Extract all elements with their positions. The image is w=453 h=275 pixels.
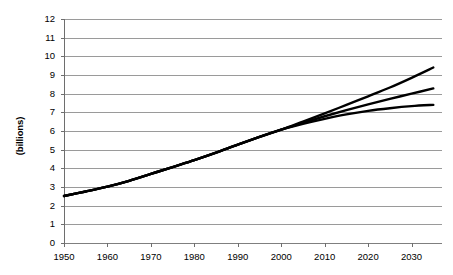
x-axis-tick-label: 1960 bbox=[87, 252, 127, 262]
x-axis-tick-label: 2010 bbox=[305, 252, 345, 262]
x-axis-tick-label: 2000 bbox=[261, 252, 301, 262]
x-axis-tick-label: 2030 bbox=[392, 252, 432, 262]
y-axis-tick-label: 5 bbox=[31, 145, 55, 155]
population-projection-chart: (billions) 01234567891011121950196019701… bbox=[0, 0, 453, 275]
chart-canvas bbox=[0, 0, 453, 275]
y-axis-tick-label: 4 bbox=[31, 163, 55, 173]
x-axis-tick-label: 1980 bbox=[174, 252, 214, 262]
y-axis-tick-label: 2 bbox=[31, 201, 55, 211]
y-axis-tick-label: 0 bbox=[31, 238, 55, 248]
series-line bbox=[64, 88, 433, 196]
y-axis-tick-label: 8 bbox=[31, 89, 55, 99]
y-axis-tick-label: 7 bbox=[31, 107, 55, 117]
x-axis-tick-label: 2020 bbox=[348, 252, 388, 262]
y-axis-tick-label: 10 bbox=[31, 51, 55, 61]
y-axis-tick-label: 3 bbox=[31, 182, 55, 192]
x-axis-tick-label: 1990 bbox=[218, 252, 258, 262]
y-axis-tick-label: 6 bbox=[31, 126, 55, 136]
y-axis-tick-label: 11 bbox=[31, 33, 55, 43]
y-axis-tick-label: 9 bbox=[31, 70, 55, 80]
y-axis-tick-label: 1 bbox=[31, 219, 55, 229]
y-axis-tick-label: 12 bbox=[31, 14, 55, 24]
plot-area: 0123456789101112195019601970198019902000… bbox=[0, 0, 453, 275]
x-axis-tick-label: 1950 bbox=[44, 252, 84, 262]
x-axis-tick-label: 1970 bbox=[131, 252, 171, 262]
